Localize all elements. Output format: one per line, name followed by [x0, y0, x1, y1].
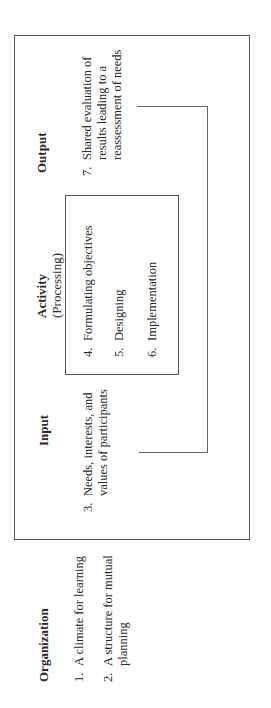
heading-output: Output	[34, 133, 49, 173]
item-4: 4. Formulating objectives	[81, 225, 96, 357]
item-text: Designing	[112, 290, 127, 341]
item-text: A structure for mutual	[101, 555, 116, 666]
item-text-cont: planning	[116, 555, 131, 666]
item-number: 7.	[80, 160, 125, 176]
item-number: 6.	[145, 341, 160, 357]
item-text: Shared evaluation of	[80, 50, 95, 160]
item-number: 4.	[81, 341, 96, 357]
item-text: Needs, interests, and	[81, 389, 96, 496]
item-text: Implementation	[145, 262, 160, 341]
item-text-cont: results leading to a	[95, 50, 110, 160]
feedback-line-input	[139, 452, 208, 453]
activity-title: Activity	[34, 274, 49, 318]
item-text-cont: values of participants	[96, 389, 111, 496]
item-5: 5. Designing	[112, 290, 127, 357]
item-2: 2. A structure for mutualplanning	[101, 555, 131, 682]
item-1: 1. A climate for learning	[72, 556, 87, 682]
item-number: 2.	[101, 666, 131, 682]
heading-input: Input	[36, 415, 51, 446]
diagram-canvas: Organization 1. A climate for learning 2…	[0, 0, 271, 708]
item-text-cont: reassessment of needs	[110, 50, 125, 160]
item-number: 3.	[81, 496, 111, 512]
item-number: 1.	[72, 666, 87, 682]
heading-organization: Organization	[36, 608, 51, 682]
item-3: 3. Needs, interests, andvalues of partic…	[81, 389, 111, 512]
item-text: Formulating objectives	[81, 225, 96, 341]
item-7: 7. Shared evaluation ofresults leading t…	[80, 50, 125, 176]
heading-activity: Activity (Processing)	[34, 253, 64, 318]
feedback-line-output	[137, 106, 208, 107]
item-text: A climate for learning	[72, 556, 87, 666]
feedback-line-bottom	[207, 106, 208, 453]
item-number: 5.	[112, 341, 127, 357]
activity-subtitle: (Processing)	[49, 253, 64, 318]
item-6: 6. Implementation	[145, 262, 160, 357]
